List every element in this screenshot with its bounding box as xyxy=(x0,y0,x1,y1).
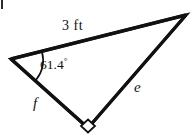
angle-value: 61.4 xyxy=(40,57,64,72)
triangle-outline xyxy=(11,15,186,128)
label-side-top: 3 ft xyxy=(62,19,83,33)
label-side-left: f xyxy=(33,96,37,111)
label-side-right: e xyxy=(134,80,141,95)
degree-symbol: ° xyxy=(64,56,68,66)
triangle-svg xyxy=(0,0,193,136)
label-angle-measure: 61.4° xyxy=(40,58,67,72)
triangle-figure: 3 ft 61.4° f e xyxy=(0,0,193,136)
